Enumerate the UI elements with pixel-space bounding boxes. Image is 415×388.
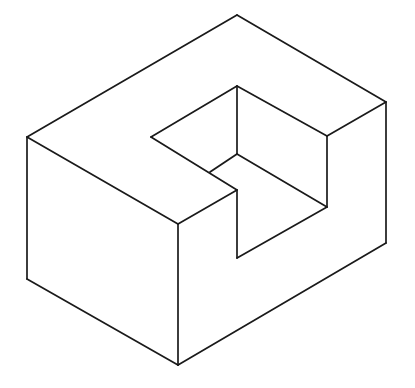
background: [0, 0, 415, 388]
isometric-block-drawing: [0, 0, 415, 388]
